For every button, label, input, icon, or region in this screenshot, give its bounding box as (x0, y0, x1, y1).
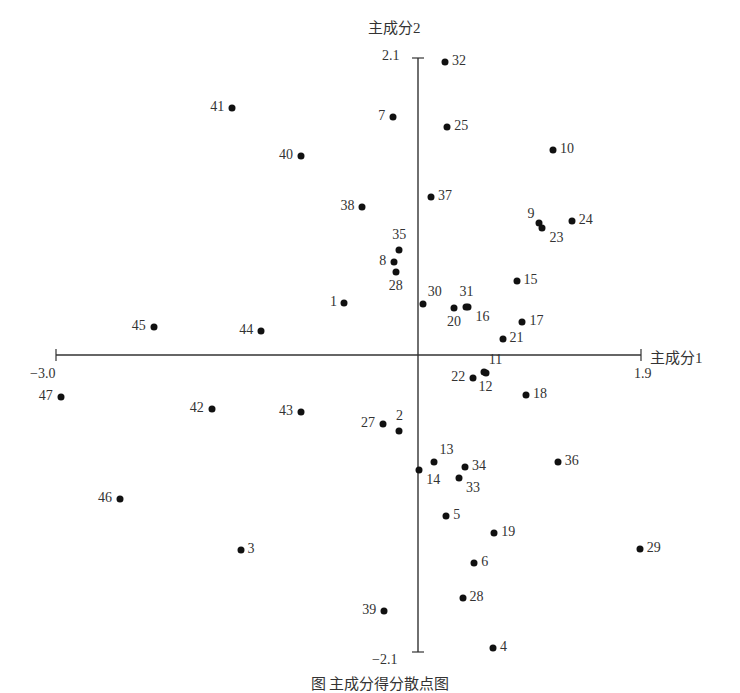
data-point-label: 45 (132, 319, 146, 333)
x-tick-max: 1.9 (634, 366, 652, 382)
data-point (395, 428, 402, 435)
data-point-label: 28 (389, 279, 403, 293)
data-point (297, 408, 304, 415)
data-point-label: 27 (361, 416, 375, 430)
data-point-label: 25 (454, 119, 468, 133)
data-point (359, 203, 366, 210)
data-point (57, 394, 64, 401)
data-point (456, 475, 463, 482)
data-point (390, 258, 397, 265)
data-point-label: 19 (501, 525, 515, 539)
data-point-label: 43 (279, 404, 293, 418)
data-point (380, 421, 387, 428)
data-point-label: 33 (466, 481, 480, 495)
data-point-label: 37 (438, 189, 452, 203)
data-point (443, 513, 450, 520)
data-point-label: 9 (527, 207, 534, 221)
data-point-label: 23 (549, 231, 563, 245)
data-point (636, 545, 643, 552)
data-point-label: 16 (475, 310, 489, 324)
figure-caption: 图 主成分得分散点图 (200, 672, 560, 693)
data-point (522, 391, 529, 398)
data-point (470, 374, 477, 381)
data-point-label: 6 (481, 555, 488, 569)
data-point-label: 3 (248, 542, 255, 556)
data-point (451, 305, 458, 312)
data-point-label: 29 (647, 541, 661, 555)
data-point (258, 327, 265, 334)
data-point-label: 41 (210, 100, 224, 114)
data-point-label: 34 (472, 459, 486, 473)
data-point (395, 247, 402, 254)
data-point (116, 496, 123, 503)
data-point-label: 12 (479, 380, 493, 394)
data-point (393, 268, 400, 275)
data-point (519, 319, 526, 326)
data-point-label: 32 (452, 54, 466, 68)
data-point-label: 20 (447, 315, 461, 329)
data-point (229, 104, 236, 111)
data-point (490, 644, 497, 651)
data-point-label: 24 (579, 213, 593, 227)
data-point-label: 21 (510, 331, 524, 345)
y-axis-title: 主成分2 (368, 16, 421, 37)
data-point (568, 217, 575, 224)
data-point (459, 595, 466, 602)
data-point-label: 2 (396, 409, 403, 423)
data-point (465, 303, 472, 310)
data-point-label: 17 (529, 314, 543, 328)
data-point (491, 530, 498, 537)
y-tick-max: 2.1 (382, 48, 400, 64)
data-point-label: 44 (239, 323, 253, 337)
data-point-label: 11 (489, 353, 502, 367)
data-point (208, 405, 215, 412)
data-point-label: 42 (190, 401, 204, 415)
x-axis-title: 主成分1 (650, 346, 703, 367)
data-point (427, 193, 434, 200)
data-point (416, 466, 423, 473)
y-tick-min: −2.1 (372, 652, 397, 668)
x-tick-min: −3.0 (30, 366, 55, 382)
data-point (539, 224, 546, 231)
data-point (389, 114, 396, 121)
data-point-label: 38 (340, 199, 354, 213)
data-point-label: 13 (439, 443, 453, 457)
data-point-label: 8 (379, 254, 386, 268)
data-point (513, 278, 520, 285)
data-point-label: 40 (279, 148, 293, 162)
data-point-label: 14 (426, 473, 440, 487)
data-point (381, 607, 388, 614)
data-point-label: 31 (460, 285, 474, 299)
data-point (554, 459, 561, 466)
data-point-label: 1 (330, 295, 337, 309)
data-point (499, 336, 506, 343)
data-point-label: 22 (451, 370, 465, 384)
data-point (471, 559, 478, 566)
data-point (441, 59, 448, 66)
data-point-label: 35 (392, 228, 406, 242)
data-point-label: 36 (565, 454, 579, 468)
data-point (419, 301, 426, 308)
data-point (444, 124, 451, 131)
data-point (483, 370, 490, 377)
data-point-label: 47 (39, 389, 53, 403)
data-point-label: 39 (362, 603, 376, 617)
data-point-label: 10 (560, 142, 574, 156)
data-point (431, 459, 438, 466)
data-point-label: 30 (428, 285, 442, 299)
data-point-label: 5 (453, 508, 460, 522)
data-point-label: 4 (500, 640, 507, 654)
data-point-label: 28 (470, 590, 484, 604)
data-point (150, 323, 157, 330)
data-point (237, 547, 244, 554)
data-point (461, 463, 468, 470)
data-point-label: 18 (533, 387, 547, 401)
data-point (297, 152, 304, 159)
data-point-label: 46 (98, 491, 112, 505)
data-point-label: 7 (378, 109, 385, 123)
data-point-label: 15 (524, 273, 538, 287)
data-point (341, 299, 348, 306)
data-point (549, 146, 556, 153)
